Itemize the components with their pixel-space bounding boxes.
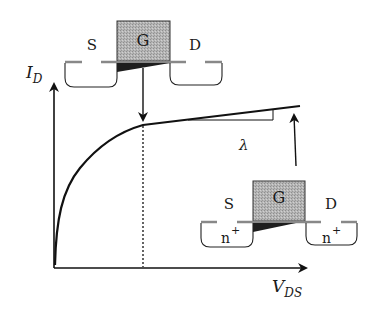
channel-bottom [253,223,296,232]
source-label-bottom: S [224,195,234,213]
clm-arrow [294,115,296,166]
drain-doping-bottom: n+ [322,224,341,246]
drain-well-top [170,63,222,85]
axes [54,84,306,268]
mosfet-diagram: ID VDS λ G S D G S D [0,0,387,317]
lambda-label: λ [238,136,249,154]
drain-label-top: D [189,36,201,54]
drain-label-bottom: D [325,195,337,213]
source-label-top: S [87,36,97,54]
source-doping-bottom: n+ [221,224,240,246]
transistor-bottom: G S D n+ n+ [201,181,357,247]
gate-label-bottom: G [273,188,286,207]
gate-label-top: G [137,31,150,50]
source-well-top [65,63,117,87]
x-axis-label: VDS [272,276,302,300]
y-axis-label: ID [25,62,43,86]
